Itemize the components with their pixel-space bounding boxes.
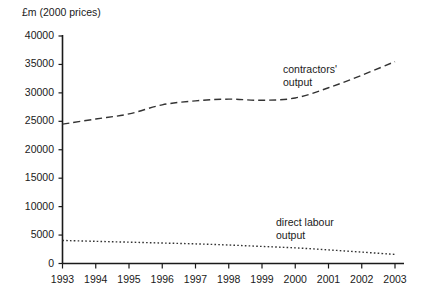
series-line-direct-labour-output: [63, 240, 396, 254]
annotation-contractors-output: contractors' output: [283, 63, 337, 88]
y-axis-tick-label: 30000: [10, 86, 54, 98]
series-line-contractors-output: [63, 62, 396, 125]
y-axis-tick-label: 10000: [10, 200, 54, 212]
y-axis-tick-label: 0: [10, 257, 54, 269]
y-axis-tick-label: 20000: [10, 143, 54, 155]
annotation-direct-line1: direct labour: [276, 216, 334, 229]
annotation-direct-line2: output: [276, 229, 334, 242]
chart-container: £m (2000 prices) 05000100001500020000250…: [0, 0, 424, 300]
y-axis-tick-label: 15000: [10, 171, 54, 183]
chart-plot-area: [0, 0, 424, 300]
annotation-contractors-line1: contractors': [283, 63, 337, 76]
y-axis-tick-label: 35000: [10, 57, 54, 69]
axis-lines: [63, 35, 405, 264]
y-axis-tick-label: 25000: [10, 114, 54, 126]
annotation-direct-labour-output: direct labour output: [276, 216, 334, 241]
annotation-contractors-line2: output: [283, 76, 337, 89]
x-axis-tick-label: 2003: [375, 273, 415, 285]
y-axis-tick-label: 5000: [10, 228, 54, 240]
y-axis-tick-label: 40000: [10, 29, 54, 41]
